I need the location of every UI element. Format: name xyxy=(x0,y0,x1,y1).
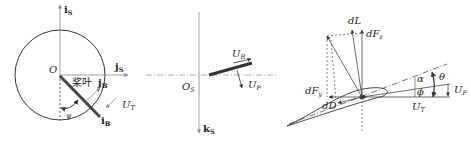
alpha-label: α xyxy=(417,73,424,84)
airfoil-section xyxy=(287,88,387,126)
theta-label: θ xyxy=(439,71,445,82)
origin-label: O xyxy=(49,64,57,75)
blade-bar-side xyxy=(209,63,252,75)
lift-arrow xyxy=(352,30,362,97)
axis-k-s-label: kS xyxy=(203,123,215,136)
phi-label: ϕ xyxy=(417,86,424,97)
drag-label: dD xyxy=(322,100,336,111)
azimuth-psi-label: ψ xyxy=(66,112,72,120)
axis-j-s-label: jS xyxy=(114,61,124,74)
lift-label: dL xyxy=(348,15,361,26)
panel-left-top-view: iS jS O 桨叶 jB iB ψ UT xyxy=(15,4,135,128)
theta-arc-arrow xyxy=(432,72,434,97)
tangential-velocity-label: UT xyxy=(122,99,135,112)
force-top-dashed xyxy=(327,33,362,36)
force-left-dashed-2 xyxy=(331,40,336,100)
perpendicular-velocity-label: UP xyxy=(248,79,261,92)
tangential-velocity-label-right: UT xyxy=(412,101,425,114)
panel-middle-side-view: kS OS UR UP xyxy=(146,12,276,136)
radial-velocity-label: UR xyxy=(232,48,245,61)
axis-i-s-label: iS xyxy=(64,4,73,17)
axis-i-b-label: iB xyxy=(101,115,111,128)
azimuth-arc xyxy=(61,100,78,109)
force-y-label: dFy xyxy=(305,85,322,98)
force-z-label: dFz xyxy=(366,28,383,41)
panel-right-airfoil-forces: dFz dL dFy dD UT UP α ϕ θ xyxy=(287,15,467,132)
axis-j-b-label: jB xyxy=(97,77,108,90)
origin-s-label: OS xyxy=(182,81,195,94)
perpendicular-velocity-label-right: UP xyxy=(454,84,467,97)
rotor-blade-diagram: iS jS O 桨叶 jB iB ψ UT kS OS UR xyxy=(0,0,471,141)
tangential-velocity-arrow xyxy=(106,98,116,108)
blade-label: 桨叶 xyxy=(72,76,92,88)
perpendicular-velocity-arrow xyxy=(237,70,242,88)
resultant-force-arrow xyxy=(327,36,362,97)
